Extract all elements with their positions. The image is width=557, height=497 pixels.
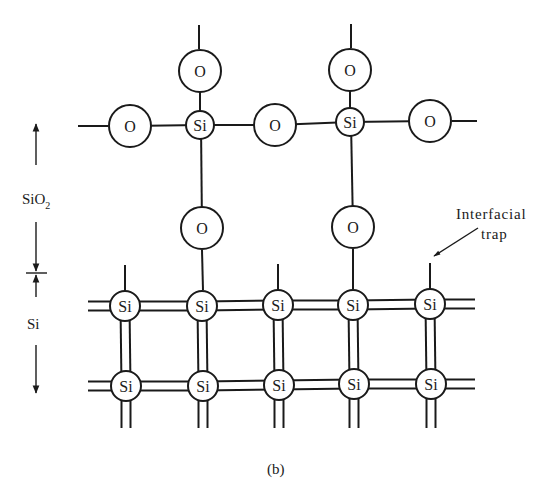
substrate-silicon-r1c2-symbol: Si (195, 298, 209, 315)
substrate-silicon-r1c5-symbol: Si (423, 296, 437, 313)
oxide-silicon-2-symbol: Si (343, 114, 357, 131)
substrate-silicon-r1c4-symbol: Si (346, 297, 360, 314)
interfacial-trap-annotation: Interfacial trap (434, 206, 526, 256)
substrate-silicon-r2c5: Si (416, 369, 446, 399)
substrate-silicon-r1c2: Si (187, 291, 217, 321)
substrate-bonds (88, 263, 475, 428)
substrate-atoms: SiSiSiSiSiSiSiSiSiSi (110, 289, 446, 401)
trap-pointer-arrow (434, 228, 478, 256)
substrate-silicon-r2c1-symbol: Si (119, 378, 133, 395)
oxygen-right: O (409, 100, 451, 142)
substrate-silicon-r2c4-symbol: Si (347, 376, 361, 393)
oxygen-bottom-2: O (332, 206, 374, 248)
substrate-silicon-r1c3-symbol: Si (271, 297, 285, 314)
oxide-silicon-1: Si (186, 111, 214, 139)
oxygen-left: O (109, 105, 151, 147)
oxygen-top-1: O (179, 50, 221, 92)
oxygen-right-symbol: O (424, 113, 436, 130)
substrate-silicon-r2c3: Si (264, 370, 294, 400)
oxide-silicon-2: Si (336, 108, 364, 136)
oxide-silicon-1-symbol: Si (193, 117, 207, 134)
trap-label-line1: Interfacial (456, 206, 526, 222)
figure-caption: (b) (267, 461, 285, 478)
oxygen-top-2-symbol: O (344, 62, 356, 79)
substrate-silicon-r1c3: Si (263, 290, 293, 320)
substrate-silicon-r2c4: Si (339, 369, 369, 399)
oxygen-bottom-2-symbol: O (347, 219, 359, 236)
bond-o-substrate-1 (202, 250, 203, 290)
substrate-silicon-r2c5-symbol: Si (424, 376, 438, 393)
oxygen-bottom-1-symbol: O (196, 220, 208, 237)
substrate-silicon-r2c2: Si (188, 371, 218, 401)
trap-label-line2: trap (481, 226, 508, 242)
substrate-silicon-r2c1: Si (111, 371, 141, 401)
si-sio2-interface-diagram: SiO2 Si OOOOOOOSiSi SiSiSiSiSiSiSiSiSiSi… (0, 0, 557, 497)
substrate-silicon-r1c1: Si (110, 291, 140, 321)
region-dimension-markers: SiO2 Si (22, 124, 50, 393)
substrate-silicon-r1c1-symbol: Si (118, 298, 132, 315)
substrate-silicon-r1c5: Si (415, 289, 445, 319)
substrate-silicon-r1c4: Si (338, 290, 368, 320)
oxygen-bridge: O (254, 104, 296, 146)
oxygen-left-symbol: O (124, 118, 136, 135)
oxygen-top-2: O (329, 49, 371, 91)
oxygen-bottom-1: O (181, 207, 223, 249)
oxide-bonds (78, 24, 477, 290)
substrate-region-label: Si (27, 316, 40, 332)
oxygen-top-1-symbol: O (194, 63, 206, 80)
oxide-atoms: OOOOOOOSiSi (109, 49, 451, 249)
substrate-silicon-r2c2-symbol: Si (196, 378, 210, 395)
substrate-silicon-r2c3-symbol: Si (272, 377, 286, 394)
oxide-region-label: SiO2 (22, 191, 50, 211)
oxygen-bridge-symbol: O (269, 117, 281, 134)
